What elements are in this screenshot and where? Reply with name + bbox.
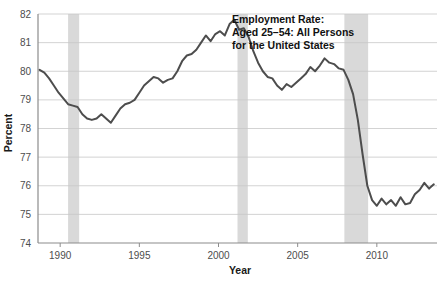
y-tick-label-77: 77: [20, 152, 32, 163]
y-tick-label-82: 82: [20, 9, 32, 20]
y-tick-label-79: 79: [20, 94, 32, 105]
y-tick-label-76: 76: [20, 180, 32, 191]
y-tick-label-74: 74: [20, 238, 32, 249]
y-axis-title: Percent: [2, 113, 14, 152]
chart-title-line-1: Employment Rate:: [232, 13, 324, 25]
y-tick-label-75: 75: [20, 209, 32, 220]
x-axis-title: Year: [229, 264, 251, 276]
y-axis-tick-labels: 747576777879808182: [20, 9, 32, 249]
y-tick-label-81: 81: [20, 37, 32, 48]
x-tick-label-1990: 1990: [49, 250, 72, 261]
x-tick-label-2000: 2000: [207, 250, 230, 261]
y-tick-label-80: 80: [20, 66, 32, 77]
x-tick-label-2010: 2010: [366, 250, 389, 261]
x-tick-label-1995: 1995: [128, 250, 151, 261]
employment-rate-line-chart: 747576777879808182 19901995200020052010 …: [0, 0, 443, 282]
chart-title-line-2: Aged 25–54: All Persons: [232, 26, 354, 38]
chart-title-line-3: for the United States: [232, 39, 335, 51]
y-tick-label-78: 78: [20, 123, 32, 134]
chart-figure: 747576777879808182 19901995200020052010 …: [0, 0, 443, 282]
x-tick-label-2005: 2005: [287, 250, 310, 261]
